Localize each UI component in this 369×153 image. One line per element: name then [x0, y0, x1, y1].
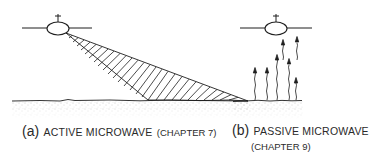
- radar-beam: [66, 33, 248, 101]
- emission-arrows: [253, 37, 298, 101]
- panel-a-letter: (a): [22, 123, 39, 139]
- satellite-b: [240, 14, 312, 35]
- satellite-a: [22, 14, 92, 35]
- caption-a: (a) ACTIVE MICROWAVE (CHAPTER 7): [22, 123, 216, 139]
- panel-b-letter: (b): [232, 122, 249, 138]
- caption-b: (b) PASSIVE MICROWAVE: [232, 122, 369, 138]
- panel-a-active: [12, 14, 250, 119]
- panel-b-title: PASSIVE MICROWAVE: [254, 125, 369, 137]
- ground-surface-a: [12, 100, 250, 120]
- caption-b-chapter: (CHAPTER 9): [251, 137, 311, 153]
- panel-b-passive: [233, 14, 312, 120]
- panel-a-chapter: (CHAPTER 7): [157, 127, 217, 138]
- panel-a-title: ACTIVE MICROWAVE: [44, 126, 153, 138]
- ground-surface-b: [233, 100, 303, 120]
- panel-b-chapter: (CHAPTER 9): [251, 141, 311, 152]
